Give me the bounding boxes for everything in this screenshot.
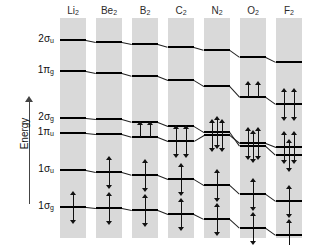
level-bar-n2-2su <box>204 49 230 51</box>
correlation-line-1pu-0 <box>86 133 96 135</box>
correlation-line-2su-3 <box>194 47 204 51</box>
level-bar-c2-1pu <box>168 140 194 142</box>
correlation-line-1pg-4 <box>229 86 240 98</box>
level-bar-b2-1pg <box>132 75 158 77</box>
correlation-line-2sg-3 <box>193 126 204 133</box>
orbital-label-2su: 2σu <box>6 34 54 44</box>
energy-axis-label: Energy <box>19 98 30 170</box>
correlation-line-1su-0 <box>86 170 96 173</box>
column-header-n2: N2 <box>199 6 235 16</box>
correlation-line-2su-4 <box>229 50 240 58</box>
correlation-line-1sg-0 <box>86 207 96 209</box>
column-header-li2: Li2 <box>55 6 91 16</box>
correlation-line-1sg-4 <box>229 219 240 229</box>
energy-axis: Energy <box>14 96 36 204</box>
correlation-line-2su-0 <box>86 40 96 43</box>
column-header-b2: B2 <box>127 6 163 16</box>
level-bar-c2-1pg <box>168 79 194 81</box>
correlation-line-1su-4 <box>229 185 240 195</box>
mo-correlation-diagram: Li2Be2B2C2N2O2F2 2σu1πg2σg1πu1σu1σg Ener… <box>0 0 318 245</box>
column-header-o2: O2 <box>235 6 271 16</box>
correlation-line-1pg-2 <box>158 76 168 81</box>
correlation-line-1sg-2 <box>158 210 168 215</box>
correlation-line-1sg-1 <box>122 208 132 211</box>
level-bar-f2-1pg <box>276 103 302 105</box>
correlation-line-2su-1 <box>122 42 132 45</box>
level-bar-be2-1pu <box>96 133 122 135</box>
correlation-line-1su-2 <box>158 175 168 180</box>
correlation-line-1pu-4 <box>229 135 240 144</box>
level-bar-li2-2sg <box>60 117 86 119</box>
correlation-line-1su-3 <box>193 179 204 186</box>
level-bar-be2-2su <box>96 41 122 43</box>
level-bar-li2-1su <box>60 169 86 171</box>
correlation-line-2sg-1 <box>122 119 132 123</box>
level-bar-be2-1pg <box>96 72 122 74</box>
correlation-line-2su-2 <box>158 44 168 48</box>
correlation-line-1sg-5 <box>265 228 276 236</box>
level-bar-li2-1pg <box>60 70 86 72</box>
correlation-line-1su-5 <box>265 194 276 202</box>
level-bar-li2-2su <box>60 39 86 41</box>
correlation-line-1pu-1 <box>122 134 132 138</box>
correlation-line-2su-5 <box>266 57 276 63</box>
correlation-line-1pg-0 <box>86 71 96 74</box>
correlation-line-2sg-2 <box>158 122 168 127</box>
level-bar-be2-2sg <box>96 118 122 120</box>
correlation-line-1pu-3 <box>194 135 205 142</box>
level-bar-c2-2su <box>168 46 194 48</box>
level-bar-b2-1pu <box>132 136 158 138</box>
level-bar-n2-1pg <box>204 85 230 87</box>
level-bar-b2-2su <box>132 43 158 45</box>
correlation-line-1pu-2 <box>158 137 168 142</box>
level-bar-li2-1pu <box>60 132 86 134</box>
correlation-line-1su-1 <box>122 172 132 176</box>
column-header-f2: F2 <box>271 6 307 16</box>
level-bar-b2-2sg <box>132 121 158 123</box>
correlation-line-2sg-0 <box>86 118 96 120</box>
level-bar-o2-1pg <box>240 96 266 98</box>
column-header-be2: Be2 <box>91 6 127 16</box>
correlation-line-1pg-3 <box>193 80 204 87</box>
orbital-label-1pg: 1πg <box>6 65 54 75</box>
level-bar-o2-2su <box>240 56 266 58</box>
level-bar-c2-2sg <box>168 125 194 127</box>
level-bar-f2-2su <box>276 61 302 63</box>
correlation-line-1pg-5 <box>265 97 276 105</box>
correlation-line-1pg-1 <box>122 73 132 77</box>
correlation-line-1sg-3 <box>194 214 204 220</box>
column-header-c2: C2 <box>163 6 199 16</box>
